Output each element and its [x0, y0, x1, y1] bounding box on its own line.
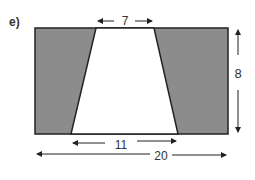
height-label: 8	[234, 66, 241, 81]
question-label: e)	[9, 15, 20, 29]
bottom-width-label: 11	[115, 138, 128, 152]
diagram-canvas: e) 7 8 11 20	[0, 0, 255, 180]
top-width-label: 7	[122, 14, 129, 28]
total-width-label: 20	[154, 149, 168, 163]
